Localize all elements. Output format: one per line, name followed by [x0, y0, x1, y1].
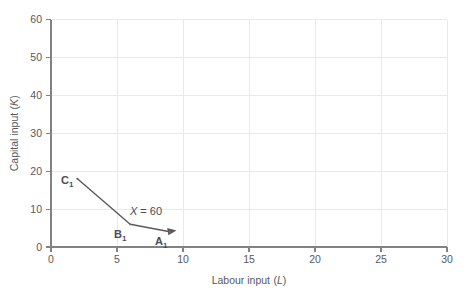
data-point-c1: [76, 178, 78, 180]
x-tick-label-20: 20: [309, 253, 321, 265]
x-tick-label-5: 5: [114, 253, 120, 265]
y-axis-title: Capital input(K): [8, 95, 20, 171]
data-point-a1: [169, 231, 171, 233]
chart-background: [0, 0, 466, 293]
x-tick-label-15: 15: [243, 253, 255, 265]
isoquant-output-label: X= 60: [129, 205, 162, 217]
x-tick-label-25: 25: [375, 253, 387, 265]
y-tick-label-0: 0: [36, 241, 42, 253]
chart-canvas: 0 10 20 30 40 50 60 0 5 10 15 20 25 30: [0, 0, 466, 293]
y-tick-label-10: 10: [30, 203, 42, 215]
x-tick-label-30: 30: [441, 253, 453, 265]
y-tick-label-40: 40: [30, 89, 42, 101]
isoquant-figure: 0 10 20 30 40 50 60 0 5 10 15 20 25 30: [0, 0, 466, 293]
x-axis-title: Labour input(L): [212, 274, 287, 286]
y-tick-label-50: 50: [30, 51, 42, 63]
y-tick-label-60: 60: [30, 13, 42, 25]
x-tick-label-0: 0: [48, 253, 54, 265]
data-point-b1: [129, 223, 131, 225]
y-tick-label-20: 20: [30, 165, 42, 177]
y-tick-label-30: 30: [30, 127, 42, 139]
x-tick-label-10: 10: [177, 253, 189, 265]
